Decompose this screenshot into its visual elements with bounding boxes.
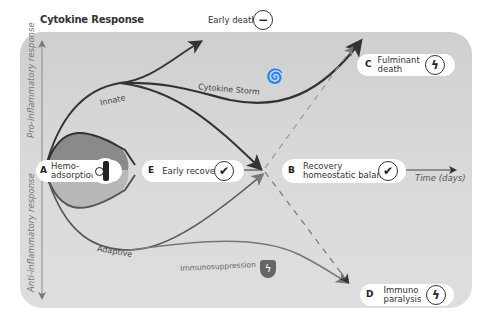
y-axis-label-pro: Pro-inflammatory response	[26, 22, 36, 138]
outcome-early-death: Early death	[200, 10, 300, 30]
lightning-circle-icon: ϟ	[425, 55, 445, 75]
dashed-to-fulminant	[265, 48, 352, 168]
broken-shield-circle-icon: ϟ	[426, 285, 446, 305]
dashed-to-paralysis	[265, 172, 348, 282]
time-axis-label: Time (days)	[415, 173, 465, 183]
y-axis-label-anti: Anti-inflammatory response	[26, 173, 36, 292]
check-circle-icon: ✔	[378, 161, 398, 181]
filter-cartridge-icon	[92, 158, 118, 184]
broken-shield-icon: ϟ	[260, 260, 276, 278]
innate-recovery-curve	[120, 83, 260, 168]
tornado-icon: 🌀	[266, 68, 283, 84]
minus-circle-icon: −	[253, 10, 273, 30]
check-circle-icon: ✔	[214, 161, 234, 181]
